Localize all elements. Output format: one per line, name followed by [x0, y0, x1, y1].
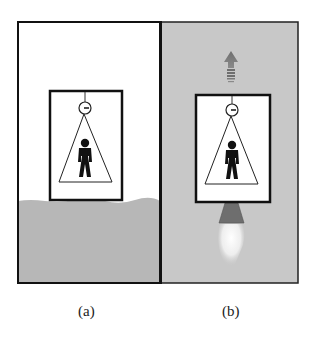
ground [18, 198, 160, 283]
caption-a: (a) [78, 303, 95, 320]
ceiling-lamp-icon [79, 102, 91, 114]
caption-b: (b) [222, 303, 240, 320]
ceiling-lamp-icon [226, 104, 238, 116]
panel-b [161, 22, 298, 283]
panel-a [18, 22, 160, 283]
elevator-b [196, 95, 270, 202]
figure [0, 0, 313, 339]
elevator-a [50, 91, 122, 200]
